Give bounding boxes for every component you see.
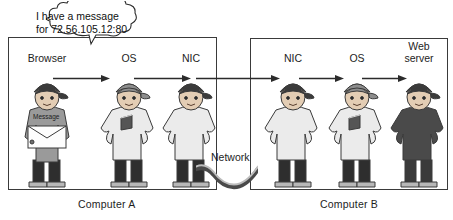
speech-bubble-text: I have a message for 72.56.105.12:80 (36, 10, 152, 35)
arrow-browser-to-os (53, 74, 111, 83)
person-os-b (326, 70, 388, 188)
arrow-nic-to-os-b (299, 74, 345, 83)
network-squiggle-icon (196, 163, 258, 193)
role-label-nic-b: NIC (263, 53, 323, 65)
person-nic-b (262, 70, 324, 188)
windows-logo-icon (121, 115, 132, 130)
windows-logo-icon (349, 115, 360, 130)
network-label: Network (211, 151, 250, 163)
arrow-network-link (196, 74, 281, 83)
envelope-label: Message (33, 113, 59, 120)
role-label-browser: Browser (17, 53, 77, 65)
arrow-os-to-web-server (362, 74, 408, 83)
computer-a-caption: Computer A (78, 198, 135, 210)
diagram-canvas: Browser OS NIC NIC OS Web server Network… (0, 0, 453, 220)
role-label-os-a: OS (99, 53, 159, 65)
arrow-os-to-nic-a (134, 74, 192, 83)
person-browser (16, 70, 78, 188)
role-label-web-server: Web server (389, 41, 449, 64)
computer-b-caption: Computer B (320, 198, 378, 210)
role-label-nic-a: NIC (161, 53, 221, 65)
person-os-a (98, 70, 160, 188)
person-web-server (388, 70, 450, 188)
role-label-os-b: OS (327, 53, 387, 65)
